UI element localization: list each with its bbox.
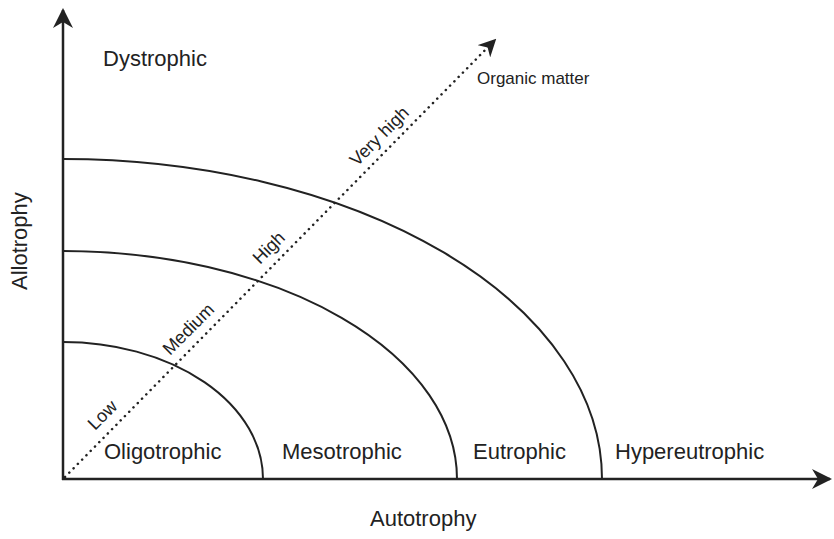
y-axis-title: Allotrophy bbox=[7, 192, 32, 290]
organic-matter-arrow bbox=[65, 40, 495, 477]
zone-label-oligotrophic: Oligotrophic bbox=[104, 439, 221, 464]
boundary-eu-hypereu bbox=[63, 159, 602, 479]
gradient-label: Organic matter bbox=[477, 69, 590, 88]
x-axis-title: Autotrophy bbox=[370, 506, 476, 531]
level-label-high: High bbox=[249, 228, 289, 268]
zone-label-hypereutrophic: Hypereutrophic bbox=[615, 439, 764, 464]
trophic-state-diagram: Dystrophic Organic matter Oligotrophic M… bbox=[0, 0, 834, 539]
zone-label-mesotrophic: Mesotrophic bbox=[282, 439, 402, 464]
region-label-dystrophic: Dystrophic bbox=[103, 46, 207, 71]
level-label-low: Low bbox=[84, 396, 122, 434]
level-label-very-high: Very high bbox=[346, 103, 413, 170]
zone-label-eutrophic: Eutrophic bbox=[473, 439, 566, 464]
